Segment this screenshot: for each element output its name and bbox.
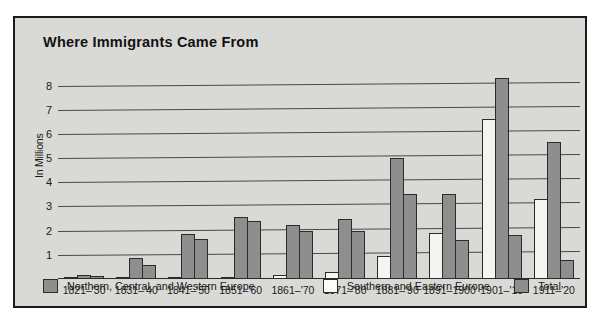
bar-south: [534, 199, 548, 279]
bar-south: [168, 277, 182, 279]
y-axis-tick-label: 5: [46, 152, 52, 164]
bar-total: [508, 235, 522, 279]
bar-south: [429, 233, 443, 279]
bar-north: [129, 258, 143, 279]
legend-swatch-icon: [43, 279, 58, 293]
bar-total: [299, 231, 313, 279]
legend-swatch-icon: [323, 279, 338, 293]
bar-north: [234, 217, 248, 279]
legend-item-total: Total: [514, 279, 561, 293]
bar-group: 1901–'10: [476, 71, 528, 279]
legend-label: Southern and Eastern Europe: [347, 280, 490, 292]
bar-south: [64, 277, 78, 279]
bar-group-bars: [319, 71, 371, 279]
bar-north: [338, 219, 352, 279]
bar-north: [77, 275, 91, 279]
bar-south: [221, 277, 235, 279]
bar-group: 1871–'80: [319, 71, 371, 279]
legend-swatch-icon: [514, 279, 529, 293]
y-axis-tick-label: 1: [46, 249, 52, 261]
bar-group: 1881–'90: [371, 71, 423, 279]
y-axis-tick-label: 3: [46, 200, 52, 212]
bar-group-bars: [267, 71, 319, 279]
y-axis-tick-label: 8: [46, 80, 52, 92]
bar-group: 1911–'20: [528, 71, 580, 279]
y-axis-tick-label: 7: [46, 104, 52, 116]
bar-group-bars: [423, 71, 475, 279]
y-axis-tick-label: 6: [46, 128, 52, 140]
bar-north: [442, 194, 456, 279]
bar-group-bars: [371, 71, 423, 279]
y-axis-label: In Millions: [33, 134, 45, 178]
bar-group-bars: [162, 71, 214, 279]
bar-south: [482, 119, 496, 279]
bar-group: 1841–'50: [162, 71, 214, 279]
bar-group: 1861–'70: [267, 71, 319, 279]
bar-south: [325, 272, 339, 279]
bar-total: [194, 239, 208, 279]
bar-total: [560, 260, 574, 279]
bar-group: 1831–'40: [110, 71, 162, 279]
legend-item-southern: Southern and Eastern Europe: [323, 279, 490, 293]
bar-total: [90, 276, 104, 279]
bar-south: [273, 275, 287, 279]
bar-north: [547, 142, 561, 279]
bar-total: [403, 194, 417, 279]
bar-group-bars: [58, 71, 110, 279]
bar-group: 1821–'30: [58, 71, 110, 279]
bar-group: 1891–1900: [423, 71, 475, 279]
bar-total: [247, 221, 261, 279]
bar-total: [455, 240, 469, 279]
bar-north: [286, 225, 300, 279]
y-axis-tick-label: 2: [46, 225, 52, 237]
bar-north: [181, 234, 195, 279]
legend-label: Northern, Central, and Western Europe: [67, 280, 255, 292]
bar-total: [142, 265, 156, 280]
bar-north: [390, 158, 404, 279]
bar-group-bars: [215, 71, 267, 279]
y-axis-tick-label: 4: [46, 176, 52, 188]
legend-item-northern: Northern, Central, and Western Europe: [43, 279, 255, 293]
chart-figure: Where Immigrants Came From In Millions 1…: [0, 0, 601, 326]
chart-panel: Where Immigrants Came From In Millions 1…: [13, 16, 587, 308]
legend-label: Total: [538, 280, 561, 292]
bar-group: 1851–'60: [215, 71, 267, 279]
bar-group-bars: [528, 71, 580, 279]
bar-north: [495, 78, 509, 279]
bar-group-bars: [476, 71, 528, 279]
bar-south: [377, 256, 391, 279]
plot-area: 12345678 1821–'301831–'401841–'501851–'6…: [58, 71, 580, 279]
chart-legend: Northern, Central, and Western Europe So…: [43, 276, 561, 296]
bar-south: [116, 277, 130, 279]
bar-group-bars: [110, 71, 162, 279]
bar-total: [351, 231, 365, 279]
page-title: Where Immigrants Came From: [43, 34, 259, 50]
